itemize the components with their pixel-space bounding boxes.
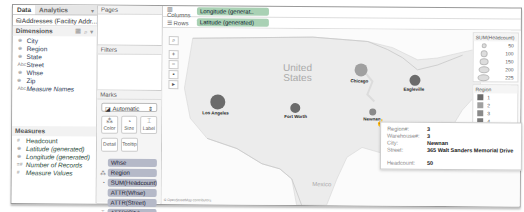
pin-button[interactable]: ▪ — [168, 70, 178, 79]
color-button[interactable]: ⁂Color — [101, 116, 118, 134]
measures-list: #Headcount ⊕Latitude (generated) ⊕Longit… — [12, 136, 96, 177]
abc-icon: Abc — [17, 85, 26, 91]
data-tabs: Data Analytics ▾ — [13, 5, 97, 16]
color-icon: ⁂ — [102, 117, 117, 125]
city-label: Fort Worth — [284, 114, 307, 119]
map-search-button[interactable]: ⌕ — [169, 36, 179, 45]
pane-menu-icon[interactable]: ▾ — [88, 6, 97, 15]
search-icon[interactable]: ⌕ — [84, 28, 88, 35]
cards-pane: Pages Filters Marks ◪ Automatic ⇕ ⁂Color… — [97, 6, 163, 204]
map-mark-los-angeles[interactable] — [210, 94, 225, 109]
label-icon: ⌶ — [99, 209, 108, 212]
pages-shelf[interactable]: Pages — [98, 6, 162, 46]
number-icon: # — [17, 137, 26, 143]
chevron-down-icon[interactable]: ▾ — [90, 28, 94, 35]
mark-pill-row: Whse — [99, 158, 157, 167]
dimensions-list: ⊕City ⊕Region ⊕State AbcStreet ⊕Whse ⊕Zi… — [12, 36, 97, 127]
dimensions-header: Dimensions ▦ ⌕ ▾ — [13, 26, 97, 37]
label-icon: ⌶ — [142, 117, 157, 125]
detail-button[interactable]: Detail — [101, 138, 118, 152]
size-legend-item: 225 — [473, 73, 517, 81]
label-mexico: Mexico — [302, 179, 342, 189]
globe-icon: ⊕ — [17, 145, 26, 151]
pill-attr-whse[interactable]: ATTR(Whse) — [108, 188, 157, 196]
globe-icon: ⊕ — [17, 77, 26, 83]
zoom-out-button[interactable]: − — [169, 60, 179, 69]
map-mark-eagleville[interactable] — [409, 75, 420, 86]
size-legend[interactable]: SUM(Headcount) 50 100 150 200 225 — [472, 32, 518, 82]
color-icon: ⁂ — [99, 169, 108, 176]
abc-icon: Abc — [18, 61, 27, 67]
mark-type-select[interactable]: ◪ Automatic ⇕ — [101, 103, 157, 112]
pin-icon: ▪ — [172, 71, 174, 77]
globe-icon: ⊕ — [18, 37, 27, 43]
city-label: Chicago — [350, 78, 368, 83]
mark-pill-row: ⌶ATTR(City) — [99, 208, 157, 212]
city-label: Eagleville — [403, 87, 424, 92]
tooltip-button[interactable]: Tooltip — [121, 138, 138, 152]
pill-region[interactable]: Region — [108, 168, 157, 176]
pages-title: Pages — [98, 6, 162, 15]
marks-title: Marks — [97, 91, 161, 100]
label-united-states: United States — [267, 63, 327, 83]
filters-shelf[interactable]: Filters — [97, 46, 161, 91]
map-mark-chicago[interactable] — [355, 63, 368, 76]
globe-icon: ⊕ — [17, 153, 26, 159]
measures-header: Measures — [12, 126, 96, 137]
columns-label: ▥ Columns — [167, 5, 197, 18]
map-mark-newnan[interactable] — [369, 108, 376, 115]
mark-pill-row: ⁂Region — [99, 168, 157, 177]
select-arrow-icon: ⇕ — [148, 105, 153, 110]
size-legend-item: 200 — [474, 65, 518, 73]
play-icon: ▸ — [172, 81, 175, 87]
map-toolbar: ⌕ + − ▪ ▸ — [168, 36, 178, 90]
plus-icon: + — [172, 51, 176, 57]
rows-label: ☰ Rows — [167, 19, 197, 26]
size-button[interactable]: ◔Size — [121, 116, 138, 134]
data-pane: Data Analytics ▾ ⛁Addresses (Facility Ad… — [12, 5, 98, 204]
pill-longitude[interactable]: Longitude (generat.. — [197, 7, 269, 16]
filters-title: Filters — [98, 46, 162, 55]
grid-icon[interactable]: ▦ — [75, 27, 82, 34]
size-icon: ◔ — [99, 179, 108, 185]
globe-icon: ⊕ — [18, 69, 27, 75]
tableau-window: Data Analytics ▾ ⛁Addresses (Facility Ad… — [11, 4, 522, 208]
data-source[interactable]: ⛁Addresses (Facility Addr... — [13, 15, 97, 27]
pill-whse[interactable]: Whse — [108, 158, 157, 166]
number-icon: # — [17, 169, 26, 175]
marks-card: Marks ◪ Automatic ⇕ ⁂Color ◔Size ⌶Label … — [97, 91, 162, 203]
search-icon: ⌕ — [172, 37, 175, 43]
expand-button[interactable]: ▸ — [168, 80, 178, 89]
mark-tooltip: Region#:3 Warehouse#:3 City:Newnan Stree… — [380, 122, 522, 171]
zoom-in-button[interactable]: + — [169, 50, 179, 59]
pill-latitude[interactable]: Latitude (generated) — [197, 18, 269, 27]
map-credit: © OpenStreetMap contributors — [164, 198, 212, 202]
globe-icon: ⊕ — [18, 53, 27, 59]
size-legend-item: 150 — [474, 57, 518, 65]
city-label: Los Angeles — [202, 110, 229, 115]
mark-pill-row: ATTR(Whse) — [99, 188, 157, 197]
minus-icon: − — [172, 61, 176, 67]
mark-pill-row: ATTR(Street) — [99, 198, 157, 207]
field-measure-values[interactable]: #Measure Values — [12, 168, 96, 177]
map-view[interactable]: ⌕ + − ▪ ▸ United States Mexico Los Angel… — [162, 28, 521, 206]
mark-type-icon: ◪ — [105, 106, 111, 112]
pill-attr-street[interactable]: ATTR(Street) — [108, 198, 157, 206]
map-mark-fort-worth[interactable] — [290, 103, 300, 113]
tab-data[interactable]: Data — [13, 5, 35, 14]
number-icon: =# — [17, 161, 26, 167]
viz-area: ▥ Columns Longitude (generat.. ☰ Rows La… — [162, 6, 521, 206]
tab-analytics[interactable]: Analytics — [35, 5, 88, 14]
label-button[interactable]: ⌶Label — [140, 116, 157, 134]
field-measure-names[interactable]: AbcMeasure Names — [12, 84, 96, 93]
globe-icon: ⊕ — [18, 45, 27, 51]
pill-attr-city[interactable]: ATTR(City) — [108, 208, 157, 212]
mark-pill-row: ◔SUM(Headcount) — [99, 178, 157, 187]
pill-sum-headcount[interactable]: SUM(Headcount) — [108, 178, 157, 186]
